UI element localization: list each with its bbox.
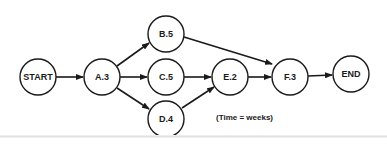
node-label: E.2 <box>223 72 237 82</box>
node-b: B.5 <box>148 16 184 52</box>
edge-a-d <box>117 88 149 109</box>
divider-line <box>0 135 387 138</box>
node-d: D.4 <box>148 101 184 137</box>
node-label: D.4 <box>159 114 173 124</box>
node-label: F.3 <box>284 72 296 82</box>
node-e: E.2 <box>212 59 248 95</box>
node-start: START <box>20 59 56 95</box>
edge-f-end <box>308 75 332 76</box>
node-label: C.5 <box>159 72 173 82</box>
node-label: START <box>23 72 53 82</box>
node-label: B.5 <box>159 29 173 39</box>
node-label: END <box>341 69 361 79</box>
node-f: F.3 <box>272 59 308 95</box>
network-diagram: START A.3 B.5 C.5 D.4 E.2 F.3 END (Time … <box>0 0 387 144</box>
node-c: C.5 <box>148 59 184 95</box>
node-label: A.3 <box>95 72 109 82</box>
node-end: END <box>333 56 369 92</box>
edge-d-e <box>182 87 214 108</box>
time-units-note: (Time = weeks) <box>216 113 273 122</box>
edge-a-b <box>117 43 149 66</box>
node-a: A.3 <box>84 59 120 95</box>
